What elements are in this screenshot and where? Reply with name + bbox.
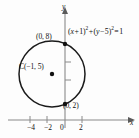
x-tick-label-zero: 0 — [60, 124, 64, 132]
circle-equation-label: (x + 1)2 + (y − 5)2 = 1 — [68, 28, 123, 36]
point-label-top: (0, 8) — [36, 33, 52, 41]
x-tick-label-minus2: −2 — [44, 124, 52, 132]
point-label-bottom: (0, 2) — [63, 102, 79, 110]
center-point-label: C(−1, 5) — [19, 63, 44, 71]
circle-coordinate-diagram: (x + 1)2 + (y − 5)2 = 1 (0, 8) (0, 2) C(… — [0, 0, 139, 138]
x-axis-label: x — [130, 119, 133, 127]
x-tick-label-2: 2 — [79, 124, 83, 132]
center-point-dot — [50, 72, 54, 76]
top-point-dot — [63, 42, 67, 46]
x-tick-label-minus4: −4 — [27, 124, 35, 132]
y-axis-label: y — [62, 3, 65, 11]
